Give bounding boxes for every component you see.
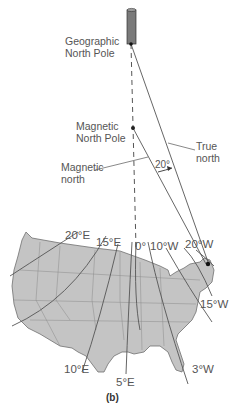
geographic-pole-cylinder bbox=[127, 8, 136, 45]
geographic-meridian-dashed bbox=[131, 44, 136, 248]
location-dot bbox=[206, 262, 210, 266]
true-north-leader bbox=[168, 143, 195, 150]
angle-label: 20° bbox=[155, 159, 170, 171]
figure-caption: (b) bbox=[106, 392, 119, 403]
magnetic-pole-label-2: North Pole bbox=[76, 132, 126, 144]
magnetic-north-label-1: Magnetic bbox=[61, 161, 104, 173]
true-north-label-1: True bbox=[196, 140, 217, 152]
geographic-pole-label-1: Geographic bbox=[65, 35, 119, 47]
isogonic-label-3W: 3°W bbox=[192, 363, 214, 375]
true-north-label-2: north bbox=[196, 152, 220, 164]
magnetic-pole-dot bbox=[131, 126, 135, 130]
isogonic-label-15E: 15°E bbox=[96, 236, 121, 248]
isogonic-label-20W: 20°W bbox=[185, 238, 213, 250]
diagram-canvas bbox=[0, 0, 230, 406]
isogonic-label-10W: 10°W bbox=[150, 240, 178, 252]
isogonic-label-5E: 5°E bbox=[116, 376, 135, 388]
magnetic-pole-label-1: Magnetic bbox=[76, 120, 119, 132]
isogonic-label-20E: 20°E bbox=[65, 229, 90, 241]
isogonic-label-15W: 15°W bbox=[200, 298, 228, 310]
geographic-pole-label-2: North Pole bbox=[65, 47, 115, 59]
isogonic-label-0: 0° bbox=[135, 240, 146, 252]
magnetic-north-label-2: north bbox=[61, 173, 85, 185]
isogonic-label-10E: 10°E bbox=[64, 363, 89, 375]
